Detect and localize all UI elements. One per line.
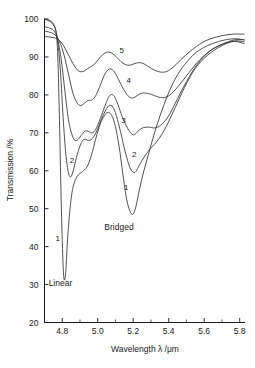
annotation-linear: Linear	[49, 278, 73, 288]
x-tick-label: 5.0	[92, 326, 104, 336]
x-tick-label: 5.2	[127, 326, 139, 336]
y-tick-label: 50	[29, 204, 39, 214]
curve-number-labels: 1122345	[56, 46, 137, 243]
curve-label-5: 5	[119, 46, 124, 55]
x-tick-label: 4.8	[56, 326, 68, 336]
y-axis-title: Transmission /%	[5, 138, 15, 201]
curve-label-1: 1	[56, 234, 61, 243]
spectrum-curve-1	[45, 19, 245, 280]
spectrum-curve-5	[45, 34, 245, 72]
y-tick-label: 70	[29, 128, 39, 138]
x-tick-label: 5.6	[198, 326, 210, 336]
x-tick-label: 5.4	[163, 326, 175, 336]
y-tick-label: 40	[29, 242, 39, 252]
spectrum-curves	[45, 19, 245, 280]
y-tick-label: 90	[29, 52, 39, 62]
x-axis-ticks: 4.85.05.25.45.65.8	[56, 318, 246, 336]
y-tick-label: 80	[29, 90, 39, 100]
region-annotations: LinearBridged	[49, 222, 134, 289]
curve-label-2: 2	[70, 156, 75, 165]
y-tick-label: 30	[29, 280, 39, 290]
spectrum-curve-3	[45, 27, 245, 141]
curve-label-1: 1	[124, 183, 129, 192]
curve-label-2: 2	[132, 150, 137, 159]
annotation-bridged: Bridged	[104, 222, 134, 232]
spectrum-curve-4	[45, 31, 245, 105]
y-tick-label: 100	[24, 14, 38, 24]
y-tick-label: 20	[29, 318, 39, 328]
spectrum-figure: 2030405060708090100 4.85.05.25.45.65.8 1…	[0, 0, 255, 368]
y-tick-label: 60	[29, 166, 39, 176]
curve-label-3: 3	[121, 116, 126, 125]
transmission-spectrum-chart: 2030405060708090100 4.85.05.25.45.65.8 1…	[0, 0, 255, 368]
x-axis-title: Wavelength λ /μm	[111, 344, 179, 354]
x-tick-label: 5.8	[234, 326, 246, 336]
curve-label-4: 4	[127, 76, 132, 85]
